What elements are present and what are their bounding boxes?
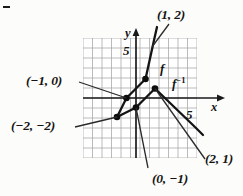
point-label-2-1: (2, 1) — [205, 152, 233, 166]
grid-lines — [83, 38, 197, 158]
curve-label-f-inverse-exponent: −1 — [176, 75, 185, 85]
tick-label-x-5: 5 — [186, 108, 193, 121]
point-label-0-neg1: (0, −1) — [152, 172, 188, 186]
plot-area — [83, 38, 197, 158]
page-corner-mark — [3, 6, 10, 8]
point-label-neg2-neg2: (−2, −2) — [11, 119, 55, 133]
curve-label-f-inverse: f−1 — [172, 76, 185, 90]
curve-label-f: f — [160, 62, 164, 75]
point-label-1-2: (1, 2) — [157, 8, 185, 22]
point-label-neg1-0: (−1, 0) — [26, 74, 62, 88]
figure-canvas: (1, 2) (−1, 0) (−2, −2) (0, −1) (2, 1) f… — [0, 0, 243, 196]
axis-label-y: y — [125, 27, 131, 40]
axis-label-x: x — [211, 101, 217, 114]
tick-label-y-5: 5 — [123, 44, 130, 57]
